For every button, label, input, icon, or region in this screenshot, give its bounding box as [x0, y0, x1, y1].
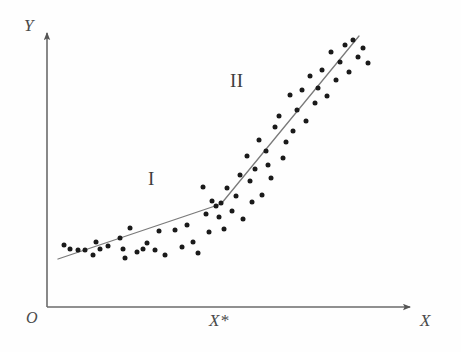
scatter-point: [234, 194, 239, 199]
scatter-point: [320, 68, 325, 73]
scatter-point: [94, 240, 99, 245]
scatter-point: [338, 60, 343, 65]
scatter-point: [230, 209, 235, 214]
y-axis-label: Y: [24, 16, 34, 36]
scatter-point: [351, 38, 356, 43]
scatter-point: [204, 212, 209, 217]
scatter-point: [141, 247, 146, 252]
region-one-label: I: [148, 168, 155, 190]
scatter-point: [217, 215, 222, 220]
scatter-point: [288, 93, 293, 98]
scatter-point: [291, 129, 296, 134]
scatter-point: [91, 253, 96, 258]
scatter-point: [185, 223, 190, 228]
region-two-label: II: [230, 70, 244, 92]
breakpoint-label: X*: [209, 311, 229, 331]
scatter-point: [173, 228, 178, 233]
scatter-point: [121, 247, 126, 252]
scatter-point: [343, 43, 348, 48]
scatter-point: [219, 201, 224, 206]
scatter-point: [118, 236, 123, 241]
plot-canvas: [0, 0, 461, 352]
scatter-point: [266, 163, 271, 168]
origin-label: O: [26, 309, 38, 327]
scatter-point: [316, 86, 321, 91]
scatter-point: [241, 217, 246, 222]
scatter-point: [325, 94, 330, 99]
scatter-point: [250, 200, 255, 205]
scatter-point: [329, 50, 334, 55]
scatter-point: [83, 248, 88, 253]
scatter-point: [361, 46, 366, 51]
scatter-point: [245, 154, 250, 159]
scatter-point: [76, 248, 81, 253]
scatter-point: [135, 250, 140, 255]
scatter-point: [157, 229, 162, 234]
scatter-point: [308, 74, 313, 79]
scatter-point: [106, 244, 111, 249]
scatter-point: [196, 251, 201, 256]
scatter-point: [210, 199, 215, 204]
scatter-point: [264, 149, 269, 154]
fit-line-polyline: [58, 36, 359, 259]
scatter-point: [207, 230, 212, 235]
scatter-point: [277, 114, 282, 119]
piecewise-fit-line: [58, 36, 359, 259]
scatter-point: [334, 78, 339, 83]
scatter-point: [238, 173, 243, 178]
scatter-point: [253, 167, 258, 172]
scatter-point: [201, 185, 206, 190]
scatter-point: [145, 241, 150, 246]
scatter-point: [191, 240, 196, 245]
scatter-point: [62, 243, 67, 248]
piecewise-regression-figure: Y O X* X I II: [0, 0, 461, 352]
scatter-point: [366, 61, 371, 66]
scatter-point: [180, 245, 185, 250]
axes-group: [47, 33, 410, 307]
scatter-point: [269, 176, 274, 181]
scatter-point: [153, 248, 158, 253]
scatter-point: [257, 138, 262, 143]
scatter-point: [295, 108, 300, 113]
scatter-point: [68, 247, 73, 252]
scatter-point: [347, 70, 352, 75]
scatter-point: [300, 88, 305, 93]
scatter-point: [273, 125, 278, 130]
scatter-point: [163, 253, 168, 258]
scatter-point: [248, 179, 253, 184]
x-axis-label: X: [420, 311, 431, 331]
scatter-point: [356, 55, 361, 60]
scatter-point: [304, 119, 309, 124]
scatter-point: [222, 227, 227, 232]
scatter-point: [128, 226, 133, 231]
scatter-point: [260, 193, 265, 198]
scatter-point: [225, 186, 230, 191]
scatter-point: [313, 101, 318, 106]
scatter-point: [284, 140, 289, 145]
scatter-point: [281, 156, 286, 161]
scatter-point: [214, 204, 219, 209]
scatter-point: [123, 256, 128, 261]
scatter-point: [98, 247, 103, 252]
scatter-points-group: [62, 38, 371, 261]
